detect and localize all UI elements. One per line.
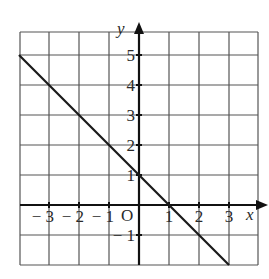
x-tick-label: − 2 (62, 207, 84, 226)
y-axis-label: y (115, 19, 125, 38)
y-tick-label: 4 (127, 76, 136, 95)
x-tick-label: 2 (195, 207, 204, 226)
y-axis-arrow-icon (134, 22, 144, 34)
x-tick-label: − 1 (92, 207, 114, 226)
x-axis-arrow-icon (256, 200, 268, 210)
x-tick-label: − 3 (32, 207, 54, 226)
y-tick-label: 2 (127, 136, 136, 155)
x-axis-label: x (245, 205, 254, 224)
y-tick-label: 5 (127, 46, 136, 65)
x-tick-label: 1 (165, 207, 174, 226)
x-tick-label: 3 (225, 207, 234, 226)
coordinate-plane: − 3− 2− 1123− 112345 x y O (0, 0, 269, 279)
axes (20, 22, 268, 265)
y-tick-label: − 1 (113, 226, 135, 245)
y-tick-label: 3 (127, 106, 136, 125)
origin-label: O (121, 206, 133, 225)
y-tick-label: 1 (127, 166, 136, 185)
